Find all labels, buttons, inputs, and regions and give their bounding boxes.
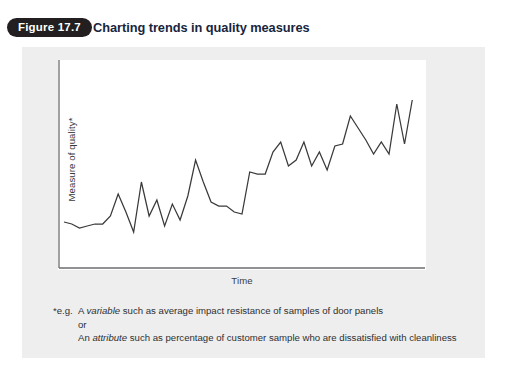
footnote-term-attribute: attribute bbox=[92, 332, 127, 343]
footnote-line-2-text: or bbox=[78, 318, 473, 332]
footnote-line-3-prefix: An bbox=[78, 332, 92, 343]
footnote-line-3-text: An attribute such as percentage of custo… bbox=[78, 331, 473, 345]
y-axis-label: Measure of quality* bbox=[66, 55, 77, 265]
footnote-term-variable: variable bbox=[87, 305, 121, 316]
figure-title: Charting trends in quality measures bbox=[93, 19, 310, 36]
data-series-line bbox=[64, 100, 412, 232]
footnote-line-1: *e.g. A variable such as average impact … bbox=[53, 304, 473, 318]
footnote-line-3-suffix: such as percentage of customer sample wh… bbox=[127, 332, 457, 343]
footnote-line-1-prefix: A bbox=[78, 305, 87, 316]
footnote-line-1-suffix: such as average impact resistance of sam… bbox=[120, 305, 383, 316]
figure-panel: Measure of quality* Time *e.g. A variabl… bbox=[22, 47, 485, 358]
chart-plot: Measure of quality* Time bbox=[58, 60, 426, 270]
figure-header: Figure 17.7 Charting trends in quality m… bbox=[0, 18, 507, 44]
line-chart-svg bbox=[58, 60, 426, 270]
footnote-line-3: An attribute such as percentage of custo… bbox=[53, 331, 473, 345]
footnote-marker: *e.g. bbox=[53, 304, 78, 318]
x-axis-label: Time bbox=[58, 275, 426, 286]
footnote-line-1-text: A variable such as average impact resist… bbox=[78, 304, 473, 318]
figure-number-badge: Figure 17.7 bbox=[7, 18, 92, 37]
footnote-line-2: or bbox=[53, 318, 473, 332]
figure-footnote: *e.g. A variable such as average impact … bbox=[53, 304, 473, 345]
